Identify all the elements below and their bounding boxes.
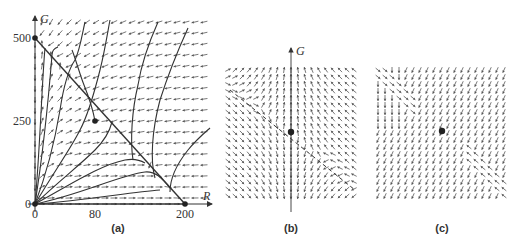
y-tick: 0 bbox=[25, 197, 31, 211]
x-tick: 200 bbox=[176, 207, 194, 221]
x-tick: 0 bbox=[32, 207, 38, 221]
fixed-point bbox=[32, 35, 38, 41]
panel-a: G R 500 250 0 0 80 200 (a) bbox=[13, 12, 212, 234]
panel-c: (c) bbox=[376, 67, 507, 234]
x-tick: 80 bbox=[89, 207, 101, 221]
panel-label-a: (a) bbox=[111, 222, 125, 234]
y-axis-label-b: G bbox=[296, 44, 305, 58]
saddle-point bbox=[439, 128, 445, 134]
saddle-point bbox=[92, 118, 98, 124]
panel-label-c: (c) bbox=[435, 222, 449, 234]
fixed-point bbox=[182, 201, 188, 207]
x-axis-label-a: R bbox=[202, 189, 211, 203]
y-tick: 500 bbox=[13, 31, 31, 45]
figure-canvas: G R 500 250 0 0 80 200 (a) G (b) (c) bbox=[0, 0, 529, 248]
panel-b: G (b) bbox=[225, 44, 356, 234]
panel-label-b: (b) bbox=[284, 222, 298, 234]
y-tick: 250 bbox=[13, 114, 31, 128]
saddle-point bbox=[288, 129, 294, 135]
y-axis-label-a: G bbox=[40, 12, 49, 26]
origin-point bbox=[32, 201, 38, 207]
